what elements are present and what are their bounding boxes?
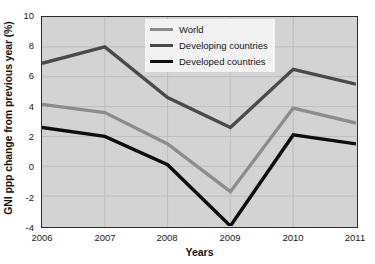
legend-swatch-developed xyxy=(150,60,173,63)
legend-item-developed: Developed countries xyxy=(150,55,268,68)
legend-label-world: World xyxy=(179,24,204,35)
y-tick-label: 10 xyxy=(12,11,34,21)
plot-area: World Developing countries Developed cou… xyxy=(41,16,358,228)
y-tick-label: -2 xyxy=(12,193,34,203)
x-tick-label-2006: 2006 xyxy=(19,232,65,244)
x-tick-label-2008: 2008 xyxy=(144,232,190,244)
x-axis-title: Years xyxy=(41,246,358,258)
legend-label-developing: Developing countries xyxy=(179,40,268,51)
legend-swatch-world xyxy=(150,28,173,31)
y-tick-label: 2 xyxy=(12,132,34,142)
x-tick-label-2007: 2007 xyxy=(82,232,128,244)
x-tick-label-2011: 2011 xyxy=(332,232,375,244)
y-tick-label: 0 xyxy=(12,162,34,172)
legend-item-world: World xyxy=(150,23,268,36)
series-line-world xyxy=(42,104,356,191)
y-tick-label: 6 xyxy=(12,71,34,81)
legend-item-developing: Developing countries xyxy=(150,39,268,52)
y-tick-label: 4 xyxy=(12,102,34,112)
series-line-developed xyxy=(42,127,356,226)
line-chart: GNI ppp change from previous year (%) 10… xyxy=(0,0,375,264)
legend-swatch-developing xyxy=(150,44,173,47)
y-tick-label: 8 xyxy=(12,41,34,51)
legend-label-developed: Developed countries xyxy=(179,56,266,67)
x-tick-label-2010: 2010 xyxy=(270,232,316,244)
x-tick-label-2009: 2009 xyxy=(207,232,253,244)
legend: World Developing countries Developed cou… xyxy=(145,19,275,72)
